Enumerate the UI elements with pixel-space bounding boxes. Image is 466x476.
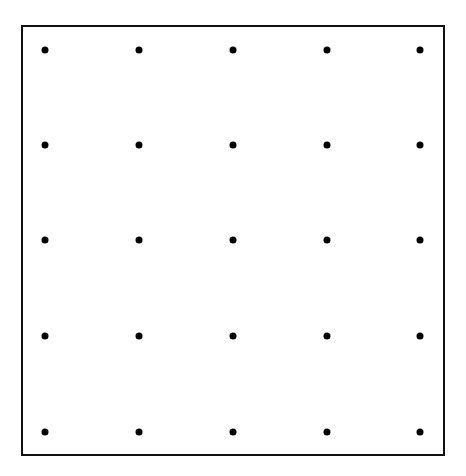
grid-dot: [42, 333, 49, 340]
grid-dot: [230, 429, 237, 436]
grid-dot: [230, 237, 237, 244]
grid-dot: [136, 142, 143, 149]
grid-dot: [42, 142, 49, 149]
grid-dot: [136, 429, 143, 436]
grid-dot: [230, 333, 237, 340]
grid-dot: [230, 142, 237, 149]
grid-dot: [230, 47, 237, 54]
grid-dot: [42, 429, 49, 436]
grid-dot: [417, 333, 424, 340]
grid-dot: [324, 142, 331, 149]
grid-dot: [417, 142, 424, 149]
grid-dot: [136, 237, 143, 244]
grid-dot: [417, 429, 424, 436]
grid-dot: [324, 47, 331, 54]
grid-dot: [136, 47, 143, 54]
grid-dot: [324, 429, 331, 436]
grid-dot: [324, 237, 331, 244]
grid-dot: [324, 333, 331, 340]
grid-dot: [417, 47, 424, 54]
grid-dot: [42, 237, 49, 244]
grid-dot: [417, 237, 424, 244]
grid-dot: [136, 333, 143, 340]
grid-dot: [42, 47, 49, 54]
